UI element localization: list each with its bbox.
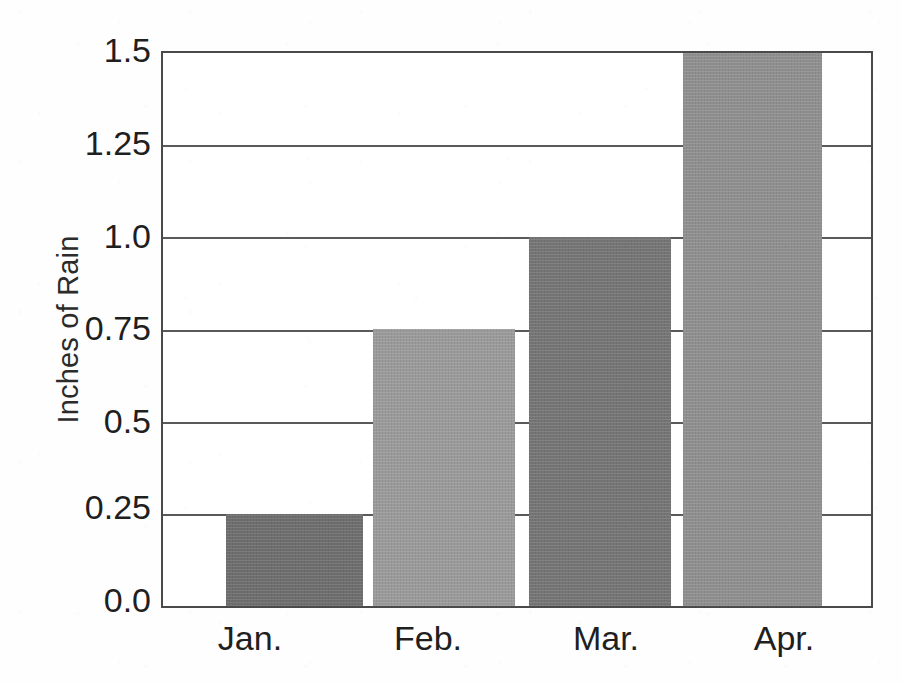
- bar-mar[interactable]: [529, 237, 671, 606]
- x-axis-tick-labels: Jan. Feb. Mar. Apr.: [161, 617, 873, 669]
- bar-apr[interactable]: [683, 53, 822, 606]
- bar-feb[interactable]: [373, 329, 515, 606]
- x-axis-tick-label-mar: Mar.: [517, 617, 695, 669]
- bar-mar-texture: [529, 237, 671, 606]
- bar-apr-texture: [683, 53, 822, 606]
- y-axis-tick-label: 0.5: [51, 404, 151, 438]
- y-axis-tick-label: 1.5: [51, 33, 151, 67]
- y-axis-tick-label: 1.25: [51, 126, 151, 160]
- bar-chart-figure: Inches of Rain 1.5 1.25 1.0 0.75 0.5 0.2…: [0, 0, 902, 684]
- bar-jan-texture: [226, 514, 363, 606]
- bar-jan[interactable]: [226, 514, 363, 606]
- y-axis-tick-label: 0.75: [51, 311, 151, 345]
- y-axis-tick-label: 0.25: [51, 490, 151, 524]
- x-axis-tick-label-apr: Apr.: [695, 617, 873, 669]
- y-axis-tick-labels: 1.5 1.25 1.0 0.75 0.5 0.25 0.0: [49, 0, 151, 684]
- y-axis-tick-label: 0.0: [51, 583, 151, 617]
- x-axis-tick-label-jan: Jan.: [161, 617, 339, 669]
- plot-area: [161, 51, 873, 608]
- x-axis-tick-label-feb: Feb.: [339, 617, 517, 669]
- y-axis-tick-label: 1.0: [51, 219, 151, 253]
- bar-feb-texture: [373, 329, 515, 606]
